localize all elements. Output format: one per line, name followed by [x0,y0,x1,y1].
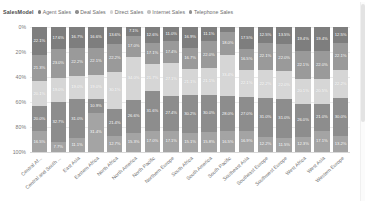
bar-segment[interactable]: 21.1% [201,68,216,94]
bar-column[interactable]: 12.6%17.1%21.7%31.6%17.0% [143,27,162,152]
bar-segment[interactable]: 7.1% [126,27,141,36]
stacked-bar[interactable]: 11.0%17.4%27.1%27.4%17.1% [163,27,178,152]
legend-item-internet-sales[interactable]: Internet Sales [147,9,185,15]
bar-segment[interactable]: 26.0% [295,104,310,137]
bar-segment[interactable]: 33.4% [220,55,235,97]
bar-segment[interactable]: 22.0% [314,51,329,79]
bar-column[interactable]: 11.1%22.0%21.1%30.0%15.8% [199,27,218,152]
bar-segment[interactable]: 19.4% [314,27,329,51]
stacked-bar[interactable]: 17.6%23.0%19.0%32.7%7.7% [51,27,66,152]
bar-segment[interactable]: 15.1% [182,133,197,152]
legend-item-direct-sales[interactable]: Direct Sales [110,9,144,15]
bar-segment[interactable]: 16.5% [32,131,47,152]
stacked-bar[interactable]: 13.6%22.2%30.1%21.4%12.7% [107,27,122,152]
bar-segment[interactable]: 17.1% [314,131,329,152]
bar-segment[interactable]: 17.0% [126,36,141,57]
bar-segment[interactable]: 16.5% [239,49,254,70]
bar-column[interactable]: 4.1%18.0%33.4%28.0%16.5% [218,27,237,152]
stacked-bar[interactable]: 4.1%18.0%33.4%28.0%16.5% [220,27,235,152]
bar-column[interactable]: 11.0%17.4%27.1%27.4%17.1% [162,27,181,152]
bar-segment[interactable]: 27.0% [239,97,254,131]
bar-segment[interactable]: 31.0% [69,99,84,138]
bar-segment[interactable]: 22.1% [88,48,103,76]
bar-segment[interactable]: 22.0% [276,44,291,72]
stacked-bar[interactable]: 19.4%22.0%20.5%21.0%17.1% [314,27,329,152]
bar-segment[interactable]: 22.1% [32,27,47,55]
stacked-bar[interactable]: 12.6%17.1%21.7%31.6%17.0% [145,27,160,152]
bar-segment[interactable]: 13.5% [276,27,291,44]
bar-segment[interactable]: 32.7% [51,102,66,143]
vertical-scrollbar-thumb[interactable] [361,4,365,122]
stacked-bar[interactable]: 16.9%16.7%21.1%30.2%15.1% [182,27,197,152]
bar-segment[interactable]: 17.1% [145,43,160,64]
bar-segment[interactable]: 7.7% [51,142,66,152]
bar-segment[interactable]: 19.0% [51,78,66,102]
bar-segment[interactable]: 27.4% [163,96,178,130]
bar-segment[interactable]: 31.0% [258,98,273,137]
bar-segment[interactable]: 19.0% [88,75,103,99]
bar-segment[interactable]: 23.0% [51,49,66,78]
bar-segment[interactable]: 10.9% [88,99,103,113]
bar-column[interactable]: 16.6%22.1%19.0%10.9%31.4% [86,27,105,152]
stacked-bar[interactable]: 19.4%22.1%20.1%26.0%12.3% [295,27,310,152]
bar-segment[interactable]: 13.6% [107,27,122,44]
bar-segment[interactable]: 12.3% [295,137,310,152]
bar-segment[interactable]: 27.1% [163,63,178,97]
bar-segment[interactable]: 16.9% [239,131,254,152]
bar-segment[interactable]: 12.5% [258,27,273,43]
bar-column[interactable]: 13.6%22.2%30.1%21.4%12.7% [105,27,124,152]
bar-segment[interactable]: 16.6% [88,27,103,48]
bar-column[interactable]: 19.4%22.0%20.5%21.0%17.1% [312,27,331,152]
bar-segment[interactable]: 12.5% [333,27,348,43]
bar-segment[interactable]: 16.9% [182,27,197,48]
stacked-bar[interactable]: 11.1%22.0%21.1%30.0%15.8% [201,27,216,152]
vertical-scrollbar-track[interactable] [360,2,365,201]
bar-segment[interactable]: 17.5% [239,27,254,49]
bar-segment[interactable]: 22.2% [69,48,84,76]
bar-segment[interactable]: 15.8% [201,132,216,152]
bar-column[interactable]: 16.9%16.7%21.1%30.2%15.1% [181,27,200,152]
bar-column[interactable]: 17.5%16.5%22.1%27.0%16.9% [237,27,256,152]
bar-segment[interactable]: 11.5% [276,138,291,152]
bar-segment[interactable]: 20.1% [32,81,47,106]
bar-segment[interactable]: 34.0% [126,57,141,100]
bar-segment[interactable]: 16.7% [69,27,84,48]
stacked-bar[interactable]: 13.5%22.0%22.0%31.0%11.5% [276,27,291,152]
bar-segment[interactable]: 16.7% [182,48,197,69]
bar-segment[interactable]: 31.6% [145,91,160,131]
legend-item-deal-sales[interactable]: Deal Sales [75,9,106,15]
bar-column[interactable]: 19.4%22.1%20.1%26.0%12.3% [294,27,313,152]
stacked-bar[interactable]: 7.1%17.0%34.0%26.6%15.3% [126,27,141,152]
bar-segment[interactable]: 12.6% [145,27,160,43]
bar-segment[interactable]: 20.0% [32,106,47,131]
bar-segment[interactable]: 12.2% [258,137,273,152]
bar-segment[interactable]: 21.1% [182,69,197,95]
horizontal-scrollbar-track[interactable] [0,200,352,203]
bar-segment[interactable]: 22.2% [258,70,273,98]
bar-segment[interactable]: 30.0% [333,98,348,136]
bar-segment[interactable]: 18.0% [220,32,235,55]
bar-segment[interactable]: 17.4% [163,41,178,63]
bar-segment[interactable]: 17.1% [163,131,178,152]
stacked-bar[interactable]: 12.5%22.1%22.2%30.0%13.2% [333,27,348,152]
bar-segment[interactable]: 12.7% [107,136,122,152]
stacked-bar[interactable]: 16.7%22.2%19.0%31.0%11.1% [69,27,84,152]
stacked-bar[interactable]: 12.5%22.1%22.2%31.0%12.2% [258,27,273,152]
stacked-bar[interactable]: 17.5%16.5%22.1%27.0%16.9% [239,27,254,152]
bar-segment[interactable]: 30.0% [201,95,216,133]
bar-segment[interactable]: 22.1% [333,43,348,71]
bar-segment[interactable]: 21.4% [107,109,122,136]
bar-segment[interactable]: 22.2% [107,44,122,72]
bar-segment[interactable]: 28.0% [220,96,235,131]
bar-segment[interactable]: 21.3% [32,55,47,82]
bar-segment[interactable]: 31.4% [88,113,103,152]
bar-column[interactable]: 7.1%17.0%34.0%26.6%15.3% [124,27,143,152]
stacked-bar[interactable]: 16.6%22.1%19.0%10.9%31.4% [88,27,103,152]
bar-segment[interactable]: 30.2% [182,95,197,133]
bar-segment[interactable]: 31.0% [276,99,291,138]
bar-segment[interactable]: 20.5% [314,79,329,105]
bar-column[interactable]: 16.7%22.2%19.0%31.0%11.1% [68,27,87,152]
bar-segment[interactable]: 30.1% [107,72,122,110]
bar-segment[interactable]: 17.0% [145,131,160,152]
bar-segment[interactable]: 21.0% [314,104,329,130]
